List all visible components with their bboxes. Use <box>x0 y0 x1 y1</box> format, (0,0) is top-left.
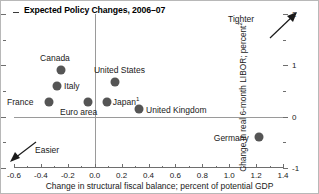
y-axis-title: Change in real 6-month LIBOR; percent2 <box>238 22 249 172</box>
y-tick-minor <box>283 142 286 143</box>
y-tick-label: 0 <box>292 112 296 121</box>
y-tick <box>283 65 288 66</box>
x-tick-label: -0.4 <box>34 171 48 180</box>
data-point-marker <box>83 97 92 106</box>
y-axis-title-text: Change in real 6-month LIBOR; percent <box>239 26 249 172</box>
y-tick <box>1 14 6 15</box>
x-axis-title: Change in structural fiscal balance; per… <box>0 181 319 191</box>
x-tick-minor <box>81 166 82 168</box>
x-tick-label: -0.6 <box>7 171 21 180</box>
x-tick <box>14 164 15 168</box>
data-point-label: United States <box>94 65 145 75</box>
policy-changes-scatter-chart: Expected Policy Changes, 2006–07 -0.6-0.… <box>0 0 319 194</box>
data-point-label: Japan1 <box>113 96 140 107</box>
data-point-label: Canada <box>40 53 70 63</box>
y-tick-minor <box>283 91 286 92</box>
x-tick-label: -0.2 <box>61 171 75 180</box>
y-axis-title-footnote: 2 <box>238 22 244 25</box>
y-axis-vertical-line <box>95 14 96 168</box>
y-tick <box>283 117 288 118</box>
y-tick <box>1 117 6 118</box>
data-point-label: Euro area <box>60 107 97 117</box>
x-tick-minor <box>27 166 28 168</box>
x-tick-label: 0.4 <box>143 171 154 180</box>
y-tick <box>283 168 288 169</box>
x-tick <box>68 164 69 168</box>
x-tick-label: 1.4 <box>277 171 288 180</box>
x-tick-minor <box>54 166 55 168</box>
data-point-marker <box>110 78 119 87</box>
x-tick-label: 0.2 <box>116 171 127 180</box>
x-tick-label: 1.2 <box>251 171 262 180</box>
y-tick-minor <box>3 91 6 92</box>
data-point-marker <box>44 97 53 106</box>
easier-annotation-label: Easier <box>35 145 59 155</box>
x-tick-label: 0.6 <box>170 171 181 180</box>
x-tick-label: 0.8 <box>197 171 208 180</box>
x-tick <box>122 164 123 168</box>
x-tick-minor <box>216 166 217 168</box>
data-point-marker <box>254 132 263 141</box>
x-tick <box>95 164 96 168</box>
y-tick-minor <box>3 40 6 41</box>
data-point-footnote: 1 <box>136 96 139 102</box>
y-tick <box>1 168 6 169</box>
x-tick-label: 1.0 <box>224 171 235 180</box>
x-tick <box>229 164 230 168</box>
y-tick-minor <box>3 142 6 143</box>
data-point-label: France <box>7 97 33 107</box>
easier-arrow-icon <box>8 140 38 164</box>
y-tick-label: 1 <box>292 61 296 70</box>
data-point-label: United Kingdom <box>146 105 206 115</box>
x-tick <box>41 164 42 168</box>
y-tick <box>1 65 6 66</box>
data-point-marker <box>102 97 111 106</box>
x-tick-minor <box>135 166 136 168</box>
data-point-marker <box>53 81 62 90</box>
x-tick <box>256 164 257 168</box>
x-tick-minor <box>162 166 163 168</box>
x-tick-minor <box>189 166 190 168</box>
x-tick <box>175 164 176 168</box>
data-point-marker <box>57 66 66 75</box>
title-tick-dash-icon <box>13 12 19 13</box>
x-tick-label: 0.0 <box>89 171 100 180</box>
x-tick <box>202 164 203 168</box>
tighter-arrow-icon <box>268 10 300 40</box>
x-tick-minor <box>270 166 271 168</box>
x-tick-minor <box>108 166 109 168</box>
y-tick-label: -1 <box>292 164 299 173</box>
data-point-label: Italy <box>64 81 80 91</box>
x-tick <box>149 164 150 168</box>
